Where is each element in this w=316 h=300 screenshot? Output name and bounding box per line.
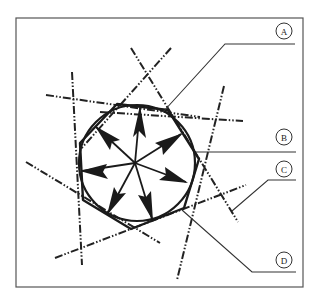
diagram: A B C D [0,0,316,300]
svg-text:B: B [281,133,287,143]
label-C: C [276,161,292,177]
label-D: D [276,252,292,268]
label-A: A [276,23,292,39]
label-B: B [276,129,292,145]
svg-text:A: A [281,27,288,37]
svg-text:C: C [281,165,287,175]
svg-text:D: D [281,256,288,266]
